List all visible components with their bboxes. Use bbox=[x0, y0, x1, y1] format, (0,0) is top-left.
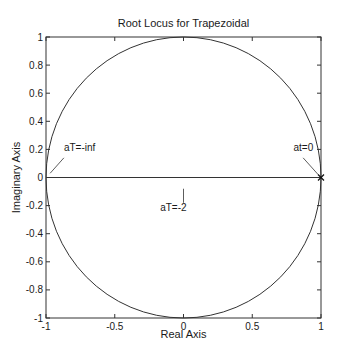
y-tick-label: -0.2 bbox=[26, 200, 44, 211]
y-tick-label: 0.4 bbox=[29, 116, 43, 127]
x-tick-label: 0.5 bbox=[245, 321, 259, 332]
y-tick-label: 0.6 bbox=[29, 88, 43, 99]
y-tick-label: -0.6 bbox=[26, 256, 44, 267]
annotation-pointer bbox=[50, 158, 64, 173]
y-tick-label: -0.8 bbox=[26, 284, 44, 295]
y-tick-label: 1 bbox=[37, 32, 43, 43]
x-tick-label: 1 bbox=[318, 321, 324, 332]
y-tick-label: 0 bbox=[37, 172, 43, 183]
y-tick-label: 0.8 bbox=[29, 60, 43, 71]
y-tick-label: -1 bbox=[34, 313, 43, 324]
x-axis-label: Real Axis bbox=[161, 328, 207, 340]
y-axis-label: Imaginary Axis bbox=[10, 141, 22, 213]
root-locus-chart: Root Locus for Trapezoidal -1-0.500.51 -… bbox=[0, 0, 337, 360]
chart-title: Root Locus for Trapezoidal bbox=[118, 17, 249, 29]
y-tick-label: -0.4 bbox=[26, 228, 44, 239]
y-tick-label: 0.2 bbox=[29, 144, 43, 155]
annotation-label: aT=-inf bbox=[64, 142, 96, 153]
annotation-pointer bbox=[303, 158, 318, 175]
annotation-label: aT=-2 bbox=[160, 202, 187, 213]
annotation-label: at=0 bbox=[294, 142, 314, 153]
x-tick-label: -0.5 bbox=[106, 321, 124, 332]
